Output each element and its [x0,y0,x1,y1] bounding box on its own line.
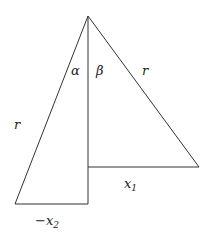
beta-label: β [95,63,104,78]
x2-subscript: 2 [52,220,59,230]
neg-x2-label: −x2 [35,213,59,230]
alpha-label: α [71,63,80,78]
triangle-diagram: α β r r x1 −x2 [0,0,212,235]
r-left-label: r [14,117,21,132]
right-hypotenuse [88,16,199,167]
left-hypotenuse [15,16,88,204]
x1-label: x1 [124,176,137,193]
r-right-label: r [142,63,149,78]
x2-base: −x [35,213,54,228]
x1-subscript: 1 [131,183,137,193]
